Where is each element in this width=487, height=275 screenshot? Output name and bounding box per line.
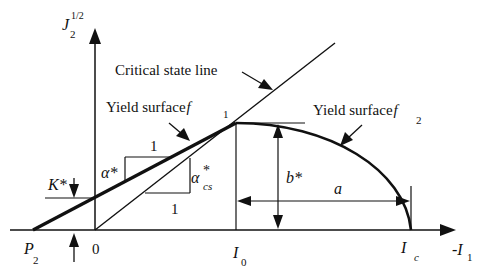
svg-text:Yield surfacef: Yield surfacef (313, 102, 400, 118)
arrow-down-icon (273, 215, 283, 229)
svg-text:1: 1 (223, 108, 229, 120)
b-star-label: b* (286, 169, 302, 186)
ic-tick-label: I c (400, 239, 419, 263)
k-star-arrow (69, 178, 79, 198)
svg-text:c: c (414, 251, 419, 263)
f1-pointer (169, 123, 190, 141)
svg-text:1/2: 1/2 (71, 10, 84, 21)
yield-surface-f2-curve (236, 123, 411, 230)
arrow-left-icon (237, 196, 251, 206)
p2-tick-label: P 2 (23, 240, 39, 266)
alpha-cs-label: α * cs (191, 163, 212, 192)
svg-text:2: 2 (33, 254, 39, 266)
critical-state-line-label: Critical state line (115, 62, 218, 78)
svg-text:α: α (191, 169, 200, 186)
arrow-down-icon (69, 184, 79, 198)
alpha-star-label: α* (101, 164, 117, 181)
svg-text:-I: -I (452, 241, 463, 258)
a-dimension (237, 196, 410, 206)
svg-text:2: 2 (70, 28, 76, 40)
y-axis-label: J 2 1/2 (62, 10, 84, 40)
svg-text:2: 2 (416, 114, 422, 126)
arrow-icon (258, 79, 273, 90)
yield-surface-f1-label: Yield surfacef 1 (106, 99, 229, 120)
svg-text:Yield surfacef: Yield surfacef (106, 99, 193, 115)
origin-tick-label: 0 (92, 241, 100, 257)
k-star-label: K* (47, 176, 67, 193)
x-axis-arrow-icon (440, 224, 456, 236)
slope-one-upper-label: 1 (150, 138, 158, 154)
svg-text:1: 1 (467, 251, 473, 263)
a-label: a (334, 180, 342, 197)
slope-one-lower-label: 1 (171, 201, 179, 217)
svg-text:*: * (203, 163, 210, 178)
arrow-icon (340, 132, 353, 146)
svg-text:I: I (400, 239, 407, 256)
svg-text:I: I (232, 244, 239, 261)
critical-state-pointer (242, 72, 273, 90)
x-axis-label: -I 1 (452, 241, 473, 263)
svg-text:cs: cs (203, 180, 212, 192)
f2-pointer (340, 125, 362, 146)
svg-text:0: 0 (241, 256, 247, 268)
alpha-cs-slope-triangle (145, 158, 190, 193)
x-axis (10, 224, 456, 236)
y-axis-arrow-icon (89, 28, 101, 44)
b-star-dimension (273, 124, 283, 229)
i0-tick-label: I 0 (232, 244, 247, 268)
yield-surface-diagram: J 2 1/2 -I 1 (0, 0, 487, 275)
k-star-lower-arrow (69, 233, 79, 262)
arrow-up-icon (69, 233, 79, 247)
svg-text:J: J (62, 16, 70, 33)
yield-surface-f2-label: Yield surfacef 2 (313, 102, 422, 126)
